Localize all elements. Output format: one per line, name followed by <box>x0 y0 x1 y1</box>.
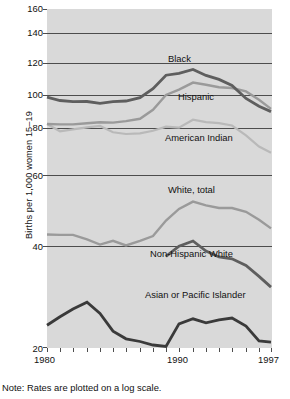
x-tick-1982 <box>73 348 74 352</box>
x-tick-1986 <box>126 348 127 352</box>
series-label-hispanic: Hispanic <box>178 92 214 101</box>
y-tick-label-20: 20 <box>33 344 43 353</box>
series-label-american-indian: American Indian <box>165 133 233 142</box>
x-tick-1987 <box>140 348 141 352</box>
y-tick-label-60: 60 <box>33 171 43 180</box>
y-tick-label-40: 40 <box>33 242 43 251</box>
x-tick-1989 <box>166 348 167 352</box>
line-asian-pacific <box>47 302 271 346</box>
y-axis-label-column: 160 140 120 100 80 60 40 20 <box>0 0 43 399</box>
y-tick-label-160: 160 <box>27 4 43 13</box>
x-tick-1993 <box>219 348 220 352</box>
x-tick-1997 <box>271 348 272 352</box>
chart-note: Note: Rates are plotted on a log scale. <box>2 382 161 393</box>
series-label-black: Black <box>168 54 191 63</box>
x-tick-1980 <box>47 348 48 352</box>
x-tick-label-1997: 1997 <box>258 355 279 364</box>
x-tick-1988 <box>153 348 154 352</box>
x-tick-1995 <box>246 348 247 352</box>
x-tick-1983 <box>87 348 88 352</box>
line-white-total <box>47 202 271 246</box>
line-black <box>47 70 271 112</box>
series-label-white-total: White, total <box>168 185 215 194</box>
x-tick-1992 <box>206 348 207 352</box>
chart-figure: Births per 1,000 women 15–19 160 140 120… <box>0 0 290 399</box>
series-label-non-hispanic-white: Non-Hispanic White <box>150 249 233 258</box>
x-tick-1981 <box>60 348 61 352</box>
y-tick-label-120: 120 <box>27 58 43 67</box>
x-tick-1991 <box>193 348 194 352</box>
x-tick-1996 <box>259 348 260 352</box>
y-tick-label-80: 80 <box>33 123 43 132</box>
x-tick-1985 <box>113 348 114 352</box>
x-tick-label-1990: 1990 <box>167 355 188 364</box>
x-tick-1990 <box>179 348 180 352</box>
x-tick-label-1980: 1980 <box>34 355 55 364</box>
y-tick-label-100: 100 <box>27 90 43 99</box>
y-tick-label-140: 140 <box>27 28 43 37</box>
series-label-asian-pacific: Asian or Pacific Islander <box>145 290 246 299</box>
x-tick-1984 <box>100 348 101 352</box>
x-tick-1994 <box>232 348 233 352</box>
